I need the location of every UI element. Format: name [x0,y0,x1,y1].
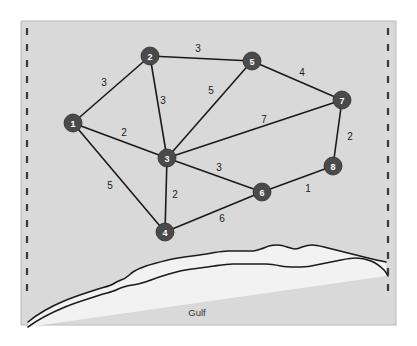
graph-node-label-6: 6 [259,188,264,198]
figure-root: 3253357326421 12345678 Gulf [0,0,417,346]
edge-weight-3-5: 5 [208,85,214,96]
graph-node-label-7: 7 [339,96,344,106]
graph-node-label-1: 1 [70,119,75,129]
edge-weight-1-4: 5 [107,180,113,191]
edge-weight-5-7: 4 [299,67,305,78]
edge-weight-4-6: 6 [219,213,225,224]
weighted-graph-diagram: 3253357326421 12345678 Gulf [0,0,417,346]
edge-weight-6-8: 1 [305,183,311,194]
graph-node-label-2: 2 [147,52,152,62]
graph-node-label-8: 8 [330,162,335,172]
edge-weight-3-7: 7 [261,114,267,125]
edge-weight-3-6: 3 [216,162,222,173]
edge-weight-3-4: 2 [172,189,178,200]
edge-weight-2-5: 3 [195,43,201,54]
edge-weight-1-2: 3 [101,77,107,88]
graph-node-label-5: 5 [249,57,254,67]
graph-node-label-3: 3 [164,154,169,164]
edge-weight-2-3: 3 [160,95,166,106]
edge-weight-1-3: 2 [121,127,127,138]
edge-weight-7-8: 2 [347,131,353,142]
gulf-caption: Gulf [188,307,206,318]
graph-node-label-4: 4 [162,228,167,238]
